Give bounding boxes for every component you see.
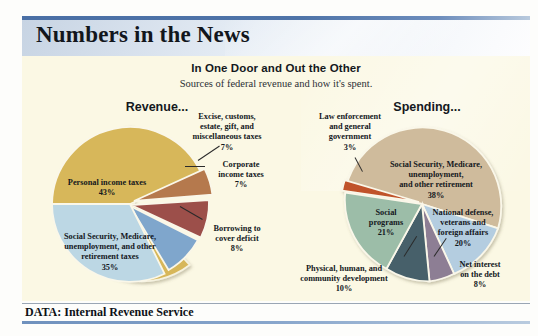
page-title: Numbers in the News (36, 22, 250, 48)
subsubtitle: Sources of federal revenue and how it's … (22, 78, 530, 89)
footer-bottom-rule (22, 321, 530, 324)
spending-label-law: Law enforcement and general government 3… (312, 112, 388, 153)
subtitle: In One Door and Out the Other (22, 62, 530, 74)
revenue-label-personal: Personal income taxes 43% (52, 178, 162, 198)
revenue-label-borrowing: Borrowing to cover deficit 8% (198, 224, 276, 255)
spending-label-social: Social programs 21% (358, 208, 414, 239)
spending-label-physical: Physical, human, and community developme… (284, 264, 404, 295)
spending-label-ssmed: Social Security, Medicare, unemployment,… (378, 160, 494, 201)
infographic-page: Numbers in the News In One Door and Out … (0, 0, 538, 336)
header: Numbers in the News (22, 16, 530, 56)
revenue-label-corporate: Corporate income taxes 7% (204, 160, 278, 191)
content-panel: In One Door and Out the Other Sources of… (22, 56, 530, 301)
footer-top-rule (22, 303, 530, 304)
revenue-label-ssmed: Social Security, Medicare, unemployment,… (42, 232, 178, 273)
spending-label-interest: Net interest on the debt 8% (442, 260, 518, 291)
spending-label-defense: National defense, veterans and foreign a… (420, 208, 506, 249)
data-source-label: DATA: Internal Revenue Service (25, 305, 194, 320)
revenue-leader-corporate (185, 166, 205, 167)
footer: DATA: Internal Revenue Service (22, 303, 530, 325)
revenue-label-excise: Excise, customs, estate, gift, and misce… (177, 112, 277, 153)
